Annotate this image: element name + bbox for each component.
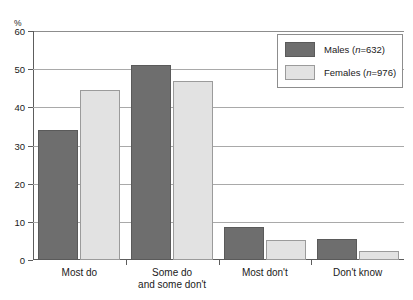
x-axis-category-label: Most don't bbox=[242, 267, 288, 279]
plot-top-border bbox=[33, 31, 404, 32]
bar-females bbox=[80, 90, 120, 260]
y-axis-tick-mark bbox=[28, 222, 33, 223]
y-axis-tick-mark bbox=[28, 146, 33, 147]
x-axis-tick-mark bbox=[219, 260, 220, 265]
y-axis-tick-label: 40 bbox=[14, 102, 25, 113]
x-axis-category-label: Some do and some don't bbox=[138, 267, 206, 291]
x-axis-category-label: Most do bbox=[62, 267, 98, 279]
y-axis-tick-label: 20 bbox=[14, 178, 25, 189]
bar-males bbox=[38, 130, 78, 260]
bar-males bbox=[224, 227, 264, 260]
legend-swatch-males bbox=[285, 42, 315, 57]
bar-females bbox=[173, 81, 213, 260]
chart-legend: Males (n=632)Females (n=976) bbox=[277, 34, 403, 88]
legend-label: Males (n=632) bbox=[324, 44, 385, 55]
y-axis-tick-mark bbox=[28, 31, 33, 32]
cropped-title bbox=[18, 0, 398, 5]
y-axis-tick-mark bbox=[28, 69, 33, 70]
x-axis-category-label: Don't know bbox=[333, 267, 382, 279]
y-axis-tick-label: 30 bbox=[14, 140, 25, 151]
legend-n-symbol: n bbox=[355, 44, 360, 55]
x-axis-tick-mark bbox=[126, 260, 127, 265]
y-axis-tick-label: 0 bbox=[20, 255, 25, 266]
legend-item: Females (n=976) bbox=[285, 64, 395, 81]
legend-n-symbol: n bbox=[366, 67, 371, 78]
legend-item: Males (n=632) bbox=[285, 41, 395, 58]
legend-label: Females (n=976) bbox=[324, 67, 396, 78]
y-axis-tick-label: 10 bbox=[14, 216, 25, 227]
bar-females bbox=[359, 251, 399, 260]
bar-females bbox=[266, 240, 306, 260]
y-axis-tick-mark bbox=[28, 184, 33, 185]
bar-males bbox=[317, 239, 357, 260]
legend-swatch-females bbox=[285, 65, 315, 80]
y-axis-tick-label: 50 bbox=[14, 64, 25, 75]
y-axis-tick-mark bbox=[28, 260, 33, 261]
bar-males bbox=[131, 65, 171, 260]
y-axis-tick-label: 60 bbox=[14, 26, 25, 37]
chart-figure: % 0102030405060 Most doSome do and some … bbox=[0, 0, 413, 300]
y-axis-tick-mark bbox=[28, 107, 33, 108]
x-axis-tick-mark bbox=[311, 260, 312, 265]
